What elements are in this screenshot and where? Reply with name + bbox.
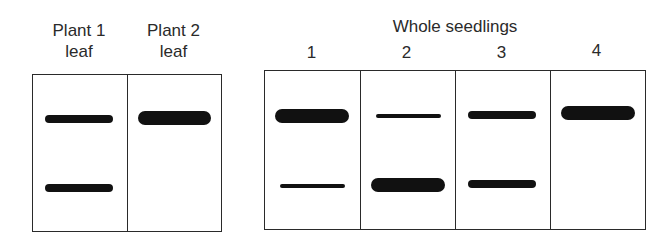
seedlings-gel (264, 70, 646, 230)
lane-label-plant1-line1: Plant 1 (32, 20, 126, 41)
lane-label-2: 2 (359, 42, 454, 63)
gel-lane-seedling-3 (455, 71, 550, 229)
lane-label-plant2: Plant 2 leaf (126, 20, 221, 62)
gel-lane-seedling-1 (265, 71, 360, 229)
lane-label-plant1: Plant 1 leaf (32, 20, 126, 62)
band (371, 178, 445, 192)
lane-label-3: 3 (454, 42, 549, 63)
gel-lane-plant2-leaf (127, 75, 221, 231)
band (376, 114, 441, 118)
band (45, 115, 113, 123)
lane-label-plant2-line1: Plant 2 (126, 20, 221, 41)
gel-lane-plant1-leaf (33, 75, 127, 231)
band (275, 109, 349, 123)
gel-lane-seedling-4 (550, 71, 645, 229)
band (138, 111, 211, 125)
lane-label-plant1-line2: leaf (32, 41, 126, 62)
lane-label-1: 1 (264, 42, 359, 63)
band (468, 180, 536, 188)
band (561, 106, 635, 120)
gel-lane-seedling-2 (360, 71, 455, 229)
lane-label-4: 4 (549, 40, 644, 61)
band (468, 111, 536, 119)
band (45, 184, 113, 192)
lane-label-plant2-line2: leaf (126, 41, 221, 62)
leaf-gel (32, 74, 222, 232)
band (280, 184, 345, 188)
gel-title-whole-seedlings: Whole seedlings (264, 16, 646, 37)
